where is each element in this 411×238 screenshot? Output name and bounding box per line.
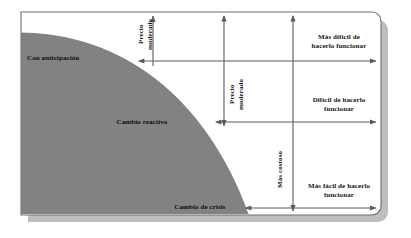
diagram-graphics bbox=[0, 0, 411, 238]
diagram-canvas: Con anticipación Cambio reactivo Cambio … bbox=[0, 0, 411, 238]
